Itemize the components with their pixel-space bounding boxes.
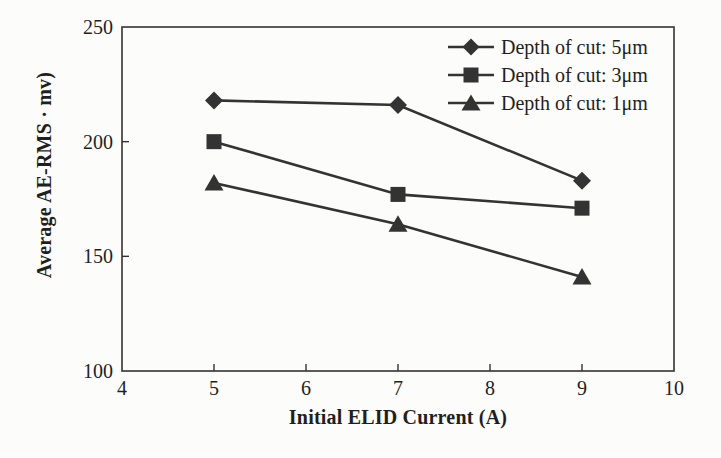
x-tick-label: 6: [301, 377, 311, 399]
x-tick-label: 7: [393, 377, 403, 399]
y-tick-label: 150: [83, 245, 113, 267]
square-data-marker: [391, 187, 406, 202]
legend: Depth of cut: 5μm Depth of cut: 3μm Dept…: [448, 33, 648, 117]
square-data-marker: [207, 134, 222, 149]
y-tick-label: 200: [83, 131, 113, 153]
legend-item-depth-5um: Depth of cut: 5μm: [448, 33, 648, 61]
legend-label: Depth of cut: 3μm: [501, 64, 648, 87]
triangle-data-marker: [205, 174, 224, 191]
legend-item-depth-1um: Depth of cut: 1μm: [448, 89, 648, 117]
square-marker-icon: [448, 65, 494, 85]
legend-label: Depth of cut: 1μm: [501, 92, 648, 115]
y-tick-label: 100: [83, 360, 113, 382]
diamond-data-marker: [205, 91, 223, 109]
chart-figure: 45678910100150200250 Average AE-RMS · mv…: [0, 0, 721, 458]
y-axis-label: Average AE-RMS · mv): [33, 72, 56, 278]
x-tick-label: 9: [577, 377, 587, 399]
diamond-data-marker: [573, 172, 591, 190]
x-tick-label: 10: [664, 377, 684, 399]
x-tick-label: 5: [209, 377, 219, 399]
legend-label: Depth of cut: 5μm: [501, 36, 648, 59]
x-axis-label: Initial ELID Current (A): [122, 406, 674, 429]
diamond-marker-icon: [448, 37, 494, 57]
y-tick-label: 250: [83, 16, 113, 38]
diamond-data-marker: [389, 96, 407, 114]
square-data-marker: [575, 201, 590, 216]
x-tick-label: 8: [485, 377, 495, 399]
x-tick-label: 4: [117, 377, 127, 399]
triangle-marker-icon: [448, 93, 494, 113]
legend-item-depth-3um: Depth of cut: 3μm: [448, 61, 648, 89]
